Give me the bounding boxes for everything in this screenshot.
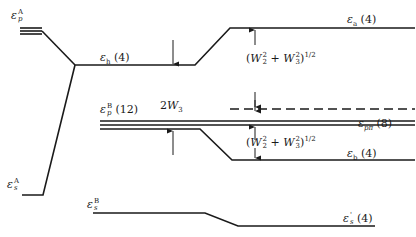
- label-eps-p-B: εBp (12): [100, 103, 138, 117]
- label-2w3: 2W3: [160, 100, 183, 111]
- label-eps-s-prime: ε's (4): [343, 212, 373, 226]
- label-eps-s-B: εBs: [87, 198, 99, 212]
- label-eps-p-A: εAp: [11, 9, 23, 23]
- label-eps-b: εb (4): [347, 148, 376, 159]
- level-eps-p-A: [20, 28, 42, 34]
- level-eps-s-B-to-eps-s-prime: [93, 213, 375, 226]
- label-eps-s-A: εAs: [7, 178, 19, 192]
- label-splitting-lower: (W22 + W23)1/2: [246, 136, 316, 150]
- level-eps-s-A: [22, 65, 75, 195]
- energy-level-diagram: [0, 0, 416, 237]
- label-eps-a: εa (4): [347, 14, 376, 25]
- connector-pA-junction: [42, 31, 75, 65]
- label-splitting-upper: (W22 + W23)1/2: [246, 52, 316, 66]
- label-eps-ppi: εpπ (8): [358, 118, 392, 129]
- label-eps-h: εh (4): [100, 52, 130, 63]
